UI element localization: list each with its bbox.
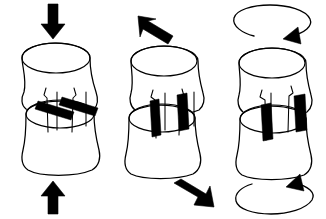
lower-vertebral-body [125, 104, 201, 179]
figure-root: Spinal motion segment loading modes Thre… [0, 0, 326, 219]
spinal-loading-figure [0, 0, 326, 219]
